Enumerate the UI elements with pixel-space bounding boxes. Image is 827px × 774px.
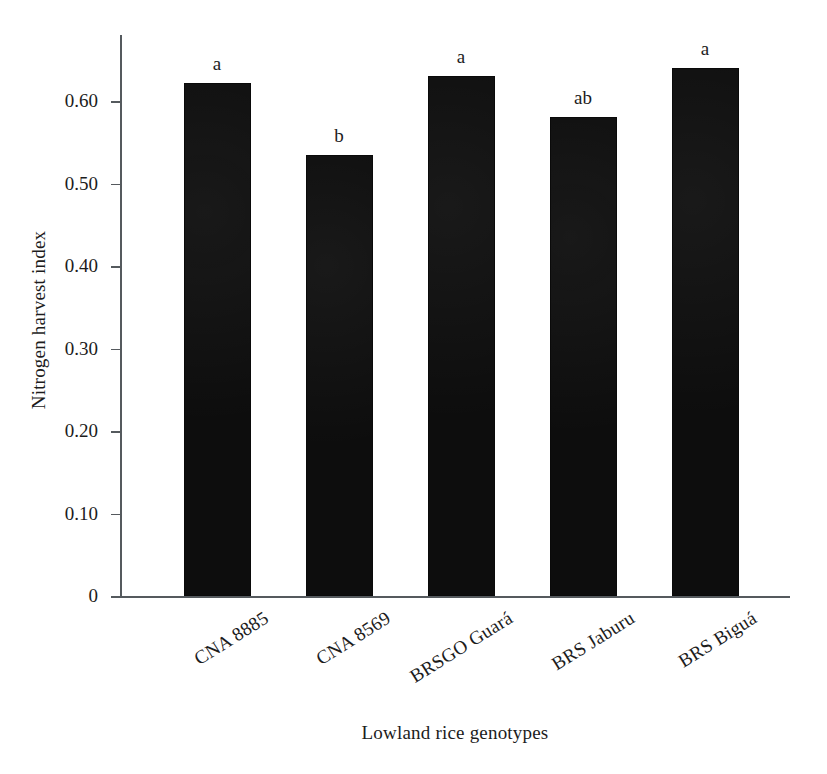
y-tick-6: 0.60 — [111, 101, 121, 103]
x-tick-label: CNA 8885 — [190, 607, 272, 670]
bar-significance-letter: a — [213, 53, 221, 75]
x-axis-title: Lowland rice genotypes — [120, 722, 790, 744]
y-tick-1: 0.10 — [111, 514, 121, 516]
x-tick-label: BRS Jaburu — [548, 607, 639, 675]
bar-significance-letter: a — [457, 46, 465, 68]
bar-significance-letter: b — [334, 125, 344, 147]
y-tick-label: 0.40 — [65, 255, 98, 277]
y-tick-2: 0.20 — [111, 431, 121, 433]
y-tick-label: 0.20 — [65, 420, 98, 442]
y-tick-label: 0.10 — [65, 503, 98, 525]
bar — [550, 117, 617, 596]
x-axis-line — [120, 596, 790, 598]
bar-significance-letter: ab — [574, 87, 592, 109]
y-axis-title: Nitrogen harvest index — [22, 20, 56, 620]
y-tick-0: 0 — [111, 596, 121, 598]
x-tick-label: CNA 8569 — [312, 607, 394, 670]
plot-area: 00.100.200.300.400.500.60 abaaba CNA 888… — [120, 35, 790, 598]
bar-significance-letter: a — [701, 38, 709, 60]
y-tick-label: 0.50 — [65, 173, 98, 195]
x-tick-label: BRS Biguá — [674, 607, 760, 672]
chart-figure: Nitrogen harvest index 00.100.200.300.40… — [0, 0, 827, 774]
y-tick-4: 0.40 — [111, 266, 121, 268]
bar — [672, 68, 739, 596]
y-tick-5: 0.50 — [111, 184, 121, 186]
x-tick-label: BRSGO Guará — [406, 607, 517, 688]
bar — [184, 83, 251, 596]
y-tick-label: 0 — [89, 585, 99, 607]
y-tick-3: 0.30 — [111, 349, 121, 351]
bar — [428, 76, 495, 596]
bar — [306, 155, 373, 596]
y-tick-label: 0.30 — [65, 338, 98, 360]
y-tick-label: 0.60 — [65, 90, 98, 112]
